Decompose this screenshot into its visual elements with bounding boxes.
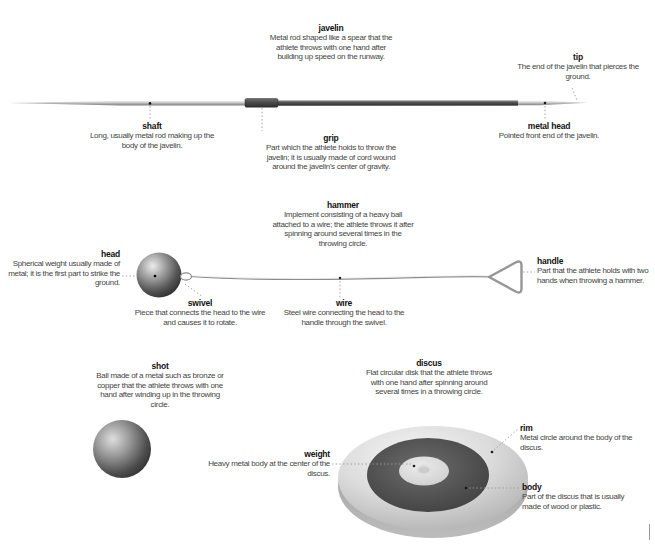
- handle-description: Part that the athlete holds with two han…: [537, 266, 655, 285]
- grip-description: Part which the athlete holds to throw th…: [262, 143, 400, 172]
- javelin-dark-section: [277, 100, 518, 105]
- swivel-label: swivel: [134, 298, 266, 308]
- body-description: Part of the discus that is usually made …: [522, 492, 644, 511]
- metal-head-callout: metal head Pointed front end of the jave…: [479, 121, 619, 141]
- swivel-leader-line: [185, 284, 203, 297]
- discus-title: discus: [364, 358, 494, 368]
- discus-graphic: [332, 426, 528, 538]
- javelin-callout: javelin Metal rod shaped like a spear th…: [266, 23, 396, 62]
- hammer-head-shape: [137, 253, 182, 298]
- weight-label: weight: [204, 449, 330, 459]
- metal-head-description: Pointed front end of the javelin.: [479, 131, 619, 141]
- hammer-graphic: [122, 253, 535, 298]
- shot-ball-shape: [93, 420, 151, 478]
- tip-callout: tip The end of the javelin that pierces …: [512, 52, 644, 81]
- hammer-callout: hammer Implement consisting of a heavy b…: [272, 200, 414, 248]
- sports-equipment-diagram: javelin Metal rod shaped like a spear th…: [0, 0, 655, 548]
- grip-callout: grip Part which the athlete holds to thr…: [262, 133, 400, 172]
- swivel-description: Piece that connects the head to the wire…: [134, 308, 266, 327]
- body-callout: body Part of the discus that is usually …: [522, 482, 644, 511]
- discus-center-ring: [418, 466, 431, 475]
- javelin-title: javelin: [266, 23, 396, 33]
- body-label: body: [522, 482, 644, 492]
- tip-leader-line: [572, 88, 577, 100]
- shot-description: Ball made of a metal such as bronze or c…: [93, 371, 227, 409]
- shot-title: shot: [93, 361, 227, 371]
- body-marker-dot: [465, 487, 468, 490]
- rim-marker-dot: [491, 451, 494, 454]
- grip-label: grip: [262, 133, 400, 143]
- tip-description: The end of the javelin that pierces the …: [512, 62, 644, 81]
- shaft-label: shaft: [88, 121, 216, 131]
- head-label: head: [0, 249, 120, 259]
- rim-callout: rim Metal circle around the body of the …: [520, 423, 650, 452]
- metal-head-label: metal head: [479, 121, 619, 131]
- rim-description: Metal circle around the body of the disc…: [520, 433, 650, 452]
- shaft-description: Long, usually metal rod making up the bo…: [88, 131, 216, 150]
- wire-callout: wire Steel wire connecting the head to t…: [281, 298, 407, 327]
- wire-marker-dot: [339, 277, 341, 279]
- head-description: Spherical weight usually made of metal; …: [0, 259, 120, 288]
- hammer-handle-shape: [489, 262, 522, 293]
- hammer-swivel-shape: [181, 273, 192, 280]
- hammer-description: Implement consisting of a heavy ball att…: [272, 210, 414, 248]
- swivel-callout: swivel Piece that connects the head to t…: [134, 298, 266, 327]
- head-marker-dot: [154, 275, 157, 278]
- handle-callout: handle Part that the athlete holds with …: [537, 256, 655, 285]
- head-callout: head Spherical weight usually made of me…: [0, 249, 120, 288]
- rim-label: rim: [520, 423, 650, 433]
- handle-label: handle: [537, 256, 655, 266]
- shaft-marker-dot: [149, 102, 152, 105]
- shot-callout: shot Ball made of a metal such as bronze…: [93, 361, 227, 409]
- page-corner-tick: [649, 524, 650, 540]
- hammer-title: hammer: [272, 200, 414, 210]
- weight-callout: weight Heavy metal body at the center of…: [204, 449, 330, 478]
- tip-label: tip: [512, 52, 644, 62]
- weight-description: Heavy metal body at the center of the di…: [204, 459, 330, 478]
- metal-head-marker-dot: [544, 102, 547, 105]
- javelin-description: Metal rod shaped like a spear that the a…: [266, 33, 396, 62]
- shot-graphic: [93, 420, 151, 478]
- shaft-callout: shaft Long, usually metal rod making up …: [88, 121, 216, 150]
- wire-label: wire: [281, 298, 407, 308]
- discus-callout: discus Flat circular disk that the athle…: [364, 358, 494, 397]
- wire-description: Steel wire connecting the head to the ha…: [281, 308, 407, 327]
- javelin-grip-shape: [245, 99, 278, 108]
- weight-marker-dot: [413, 465, 416, 468]
- discus-description: Flat circular disk that the athlete thro…: [364, 368, 494, 397]
